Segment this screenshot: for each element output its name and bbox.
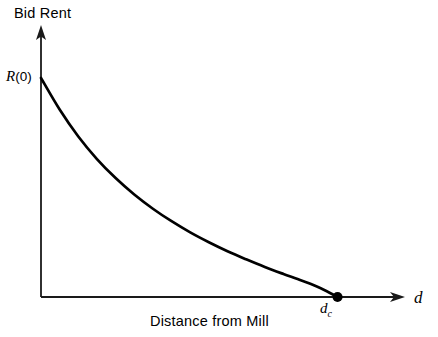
critical-distance-subscript: c: [328, 308, 332, 319]
chart-plot-area: [0, 0, 438, 337]
y-intercept-variable: R: [6, 68, 15, 84]
critical-distance-dot: [333, 292, 343, 302]
y-intercept-label: R(0): [6, 69, 32, 84]
critical-distance-label: dc: [320, 301, 332, 319]
critical-distance-variable: d: [320, 300, 328, 316]
y-intercept-argument: (0): [15, 69, 32, 84]
x-axis-title: Distance from Mill: [150, 314, 269, 329]
bid-rent-chart: Bid Rent Distance from Mill R(0) dc d: [0, 0, 438, 337]
y-axis-title: Bid Rent: [14, 6, 71, 21]
x-axis-variable-label: d: [414, 289, 423, 306]
bid-rent-curve: [41, 78, 338, 297]
